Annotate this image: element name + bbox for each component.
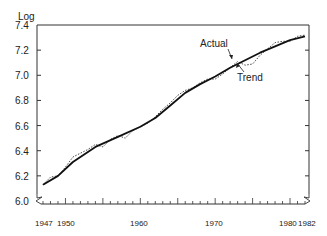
x-tick-label: 1970	[205, 219, 223, 228]
y-tick-label: 6.2	[15, 171, 29, 182]
y-tick-label: 6.6	[15, 121, 29, 132]
annotation-trend: Trend	[237, 72, 263, 83]
trend-series-line	[43, 36, 305, 184]
y-axis-ticks	[37, 50, 309, 176]
y-tick-label: 7.2	[15, 45, 29, 56]
annotation-actual: Actual	[200, 38, 228, 49]
x-tick-label: 1950	[57, 219, 75, 228]
y-tick-label: 7.0	[15, 70, 29, 81]
arrow-head-icon	[229, 55, 233, 59]
y-tick-label: 6.8	[15, 95, 29, 106]
y-tick-label: 6.4	[15, 146, 29, 157]
x-tick-label: 1982	[298, 219, 316, 228]
plot-frame	[36, 25, 310, 204]
actual-series-line	[43, 35, 305, 185]
y-tick-label: 7.4	[15, 20, 29, 31]
x-tick-label: 1960	[130, 219, 148, 228]
x-tick-label: 1947	[35, 219, 53, 228]
x-axis-ticks	[43, 198, 305, 204]
y-tick-label: 6.0	[15, 196, 29, 207]
x-tick-label: 1980	[279, 219, 297, 228]
chart-canvas: Log 7.4 7.2 7.0 6.8 6.6 6.4 6.2 6.0 1947…	[0, 0, 327, 236]
